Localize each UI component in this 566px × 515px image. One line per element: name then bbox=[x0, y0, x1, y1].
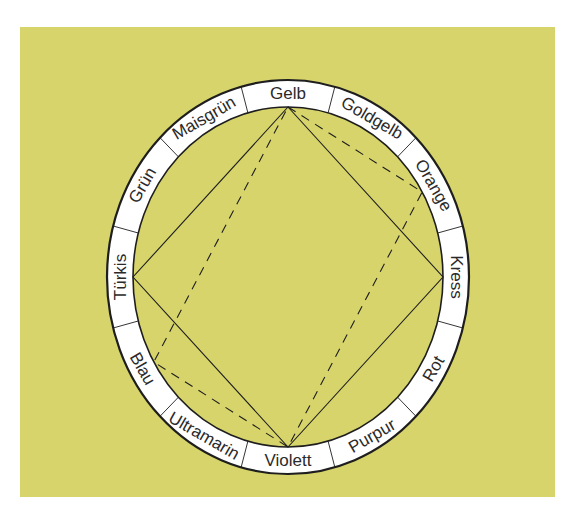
color-wheel-ring bbox=[107, 80, 469, 474]
segment-label-trkis: Türkis bbox=[111, 254, 130, 300]
color-wheel-diagram: GelbGoldgelbOrangeKressRotPurpurViolettU… bbox=[0, 0, 566, 515]
segment-label-gelb: Gelb bbox=[270, 84, 306, 103]
ring-inner-edge bbox=[133, 107, 443, 447]
segment-label-violett: Violett bbox=[265, 451, 312, 470]
segment-label-kress: Kress bbox=[447, 255, 466, 298]
